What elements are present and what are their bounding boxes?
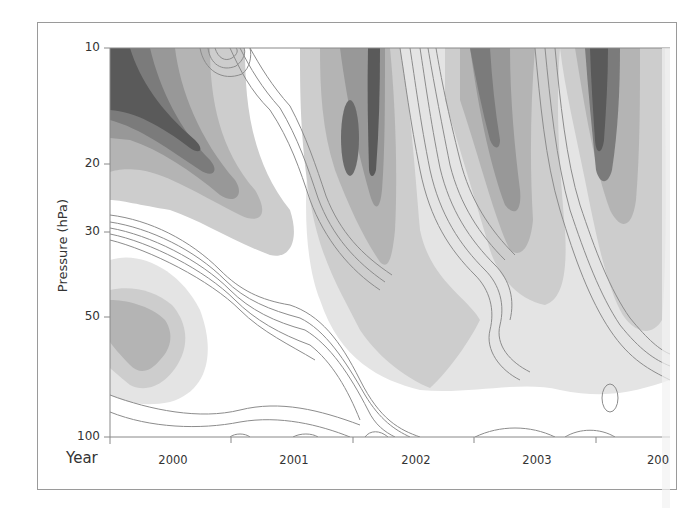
ytick-100: 100: [60, 429, 100, 443]
ytick-10: 10: [60, 40, 100, 54]
x-axis-label: Year: [66, 449, 98, 467]
xtick-2004-clipped: 200: [628, 453, 681, 467]
xtick-2000: 2000: [143, 453, 203, 467]
contour-fills: [110, 48, 670, 437]
y-axis-label: Pressure (hPa): [55, 181, 70, 311]
xtick-2002: 2002: [386, 453, 446, 467]
ytick-50: 50: [60, 309, 100, 323]
ytick-20: 20: [60, 156, 100, 170]
xtick-2003: 2003: [507, 453, 567, 467]
xtick-2001: 2001: [264, 453, 324, 467]
